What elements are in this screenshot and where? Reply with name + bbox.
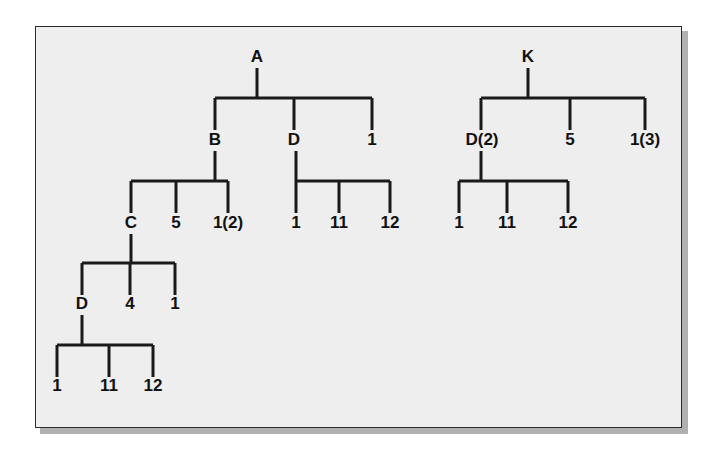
node-a-child-1: 1 [367,130,376,149]
node-a-child-b: B [209,130,221,149]
edge-a-bar [215,68,372,130]
node-k-root: K [522,47,535,66]
node-c-child-d: D [76,294,88,313]
edge-k-bar [481,68,645,130]
tree-diagram-svg: ABD1C51(2)11112D4111112KD(2)51(3)11112 [0,0,718,455]
screenshot-root: ABD1C51(2)11112D4111112KD(2)51(3)11112 [0,0,718,455]
node-ad-child-1: 1 [291,213,300,232]
node-ad-child-11: 11 [330,213,348,232]
node-a-root: A [251,47,263,66]
node-b-child-5: 5 [171,213,180,232]
node-k-child-1-3: 1(3) [630,130,660,149]
node-cd-child-11: 11 [100,376,118,395]
node-a-child-d: D [288,130,300,149]
edge-kd-bar [459,151,568,213]
node-c-child-1: 1 [170,294,179,313]
node-cd-child-12: 12 [144,376,163,395]
edge-b-bar [131,151,228,213]
node-b-child-c: C [125,213,137,232]
node-kd-child-12: 12 [559,213,578,232]
node-c-child-4: 4 [125,294,135,313]
node-k-child-d2: D(2) [465,130,498,149]
node-ad-child-12: 12 [381,213,400,232]
node-cd-child-1: 1 [52,376,61,395]
edge-c-bar [82,234,175,295]
node-kd-child-1: 1 [454,213,463,232]
edges-layer [57,68,645,377]
node-k-child-5: 5 [565,130,574,149]
edge-cd-bar [57,315,153,377]
edge-ad-bar [296,151,390,213]
node-kd-child-11: 11 [498,213,516,232]
node-b-child-1-2: 1(2) [213,213,243,232]
